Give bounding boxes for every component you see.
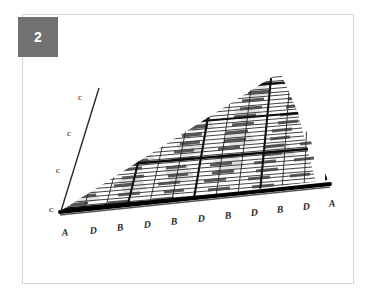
figure-root: A D B D B D B D B D A C C C C	[0, 0, 374, 302]
panel-number-badge: 2	[18, 17, 58, 57]
bottom-label-10: A	[327, 197, 336, 209]
lattice-grid-svg: A D B D B D B D B D A C C C C	[22, 14, 354, 284]
corner-axis-label: C	[49, 206, 54, 214]
panel-number-label: 2	[34, 29, 42, 45]
bottom-label-7: D	[249, 206, 258, 218]
lattice-sheet	[60, 75, 330, 215]
left-label-1: C	[67, 131, 72, 137]
bottom-label-4: B	[169, 215, 178, 227]
left-label-2: C	[78, 95, 83, 101]
diagram-stage: A D B D B D B D B D A C C C C	[22, 14, 354, 284]
bottom-label-8: B	[275, 203, 284, 215]
left-axis-labels: C C C	[56, 95, 83, 174]
bottom-label-2: B	[115, 221, 124, 233]
bottom-label-3: D	[142, 218, 151, 230]
bottom-label-5: D	[196, 212, 205, 224]
bottom-label-1: D	[88, 224, 97, 236]
bottom-label-6: B	[223, 209, 232, 221]
corner-label-c: C	[49, 206, 54, 214]
bottom-label-9: D	[301, 200, 310, 212]
bottom-label-0: A	[60, 226, 69, 238]
left-label-0: C	[56, 168, 61, 174]
